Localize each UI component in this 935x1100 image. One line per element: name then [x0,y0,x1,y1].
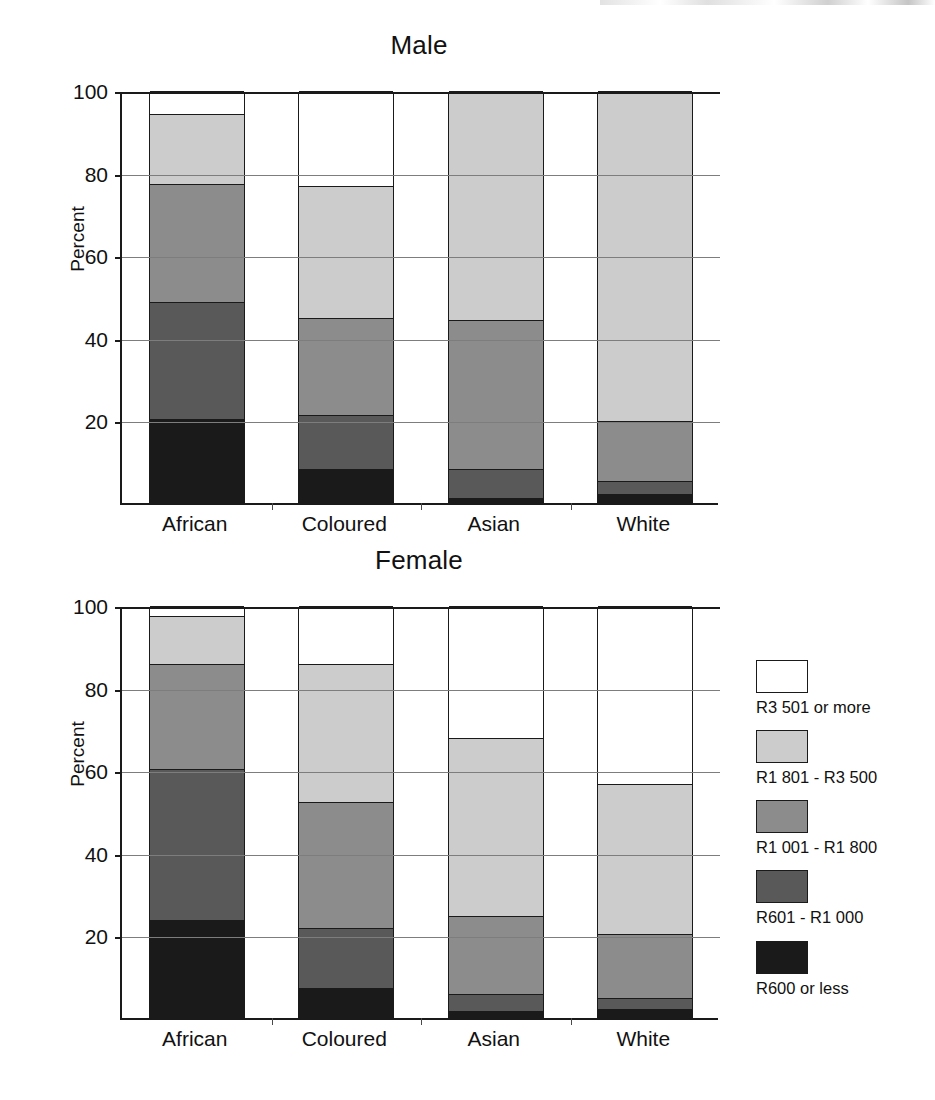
scan-artifact [600,0,935,5]
bar-segment[interactable] [299,606,393,664]
bar-segment[interactable] [449,320,543,469]
bar-segment[interactable] [449,606,543,738]
gridline-80 [122,175,720,176]
bar-segment[interactable] [449,738,543,916]
gridline-60 [122,772,720,773]
bar-segment[interactable] [150,184,244,302]
bar-group-coloured [298,92,394,505]
chart-panel-male: Male Percent 20406080100AfricanColouredA… [0,30,935,530]
bar-segment[interactable] [449,498,543,504]
y-tick-label-100: 100 [60,596,108,617]
legend-swatch [756,800,808,833]
bar-segment[interactable] [299,318,393,415]
y-tick-label-40: 40 [60,329,108,350]
bar-segment[interactable] [150,664,244,769]
bar-group-african [149,607,245,1020]
bar-segment[interactable] [598,481,692,493]
legend-swatch [756,660,808,693]
y-tick-mark-60 [115,772,122,774]
y-tick-label-60: 60 [60,246,108,267]
bar-segment[interactable] [299,469,393,504]
stacked-bar-coloured[interactable] [298,607,394,1020]
bar-segment[interactable] [449,1011,543,1019]
y-tick-mark-60 [115,257,122,259]
y-tick-label-40: 40 [60,844,108,865]
bar-segment[interactable] [449,916,543,994]
legend-swatch [756,870,808,903]
y-tick-mark-20 [115,422,122,424]
gridline-100 [122,92,720,94]
stacked-bar-asian[interactable] [448,92,544,505]
x-tick-label-coloured: Coloured [270,512,420,536]
bar-segment[interactable] [150,920,244,1019]
bar-segment[interactable] [150,302,244,420]
plot-area-male [120,92,718,505]
bar-group-coloured [298,607,394,1020]
x-tick-mark [571,1018,572,1025]
bar-group-white [597,607,693,1020]
bar-segment[interactable] [598,998,692,1008]
bar-segment[interactable] [598,421,692,481]
y-tick-mark-100 [115,607,122,609]
stacked-bar-white[interactable] [597,607,693,1020]
panel-title-male: Male [120,30,718,61]
x-tick-mark [421,503,422,510]
legend-item[interactable]: R601 - R1 000 [756,870,935,926]
stacked-bar-asian[interactable] [448,607,544,1020]
x-tick-label-african: African [120,512,270,536]
y-tick-mark-100 [115,92,122,94]
bar-segment[interactable] [150,114,244,184]
y-tick-mark-40 [115,855,122,857]
x-tick-mark [571,503,572,510]
legend-item[interactable]: R1 001 - R1 800 [756,800,935,856]
bar-segment[interactable] [598,934,692,998]
bar-segment[interactable] [299,91,393,186]
legend-swatch [756,941,808,974]
panel-title-female: Female [120,545,718,576]
bar-segment[interactable] [449,994,543,1011]
bar-segment[interactable] [449,469,543,498]
bar-segment[interactable] [598,606,692,784]
x-tick-mark [272,1018,273,1025]
y-tick-label-80: 80 [60,679,108,700]
bar-group-african [149,92,245,505]
bar-segment[interactable] [598,494,692,504]
y-tick-label-20: 20 [60,411,108,432]
y-tick-mark-80 [115,175,122,177]
bar-segment[interactable] [299,664,393,802]
bar-segment[interactable] [299,988,393,1019]
bar-segment[interactable] [150,419,244,504]
bar-segment[interactable] [449,91,543,320]
y-tick-label-100: 100 [60,81,108,102]
bar-segment[interactable] [150,91,244,114]
legend-label: R601 - R1 000 [756,908,935,926]
bar-segment[interactable] [299,802,393,928]
chart-legend: R3 501 or moreR1 801 - R3 500R1 001 - R1… [756,660,935,1011]
y-tick-mark-80 [115,690,122,692]
bar-segment[interactable] [598,784,692,935]
x-tick-mark [272,503,273,510]
stacked-bar-coloured[interactable] [298,92,394,505]
stacked-bar-african[interactable] [149,92,245,505]
y-tick-mark-20 [115,937,122,939]
stacked-bar-white[interactable] [597,92,693,505]
bar-segment[interactable] [150,616,244,663]
bar-segment[interactable] [150,769,244,920]
x-tick-label-asian: Asian [419,512,569,536]
stacked-bar-african[interactable] [149,607,245,1020]
bar-group-white [597,92,693,505]
bar-segment[interactable] [598,1009,692,1019]
gridline-40 [122,340,720,341]
bars-female [122,607,720,1020]
legend-label: R1 801 - R3 500 [756,768,935,786]
gridline-40 [122,855,720,856]
legend-item[interactable]: R1 801 - R3 500 [756,730,935,786]
legend-item[interactable]: R3 501 or more [756,660,935,716]
y-tick-label-20: 20 [60,926,108,947]
bar-segment[interactable] [299,186,393,318]
x-tick-label-white: White [569,1027,719,1051]
legend-item[interactable]: R600 or less [756,941,935,997]
y-tick-label-80: 80 [60,164,108,185]
gridline-100 [122,607,720,609]
gridline-20 [122,422,720,423]
